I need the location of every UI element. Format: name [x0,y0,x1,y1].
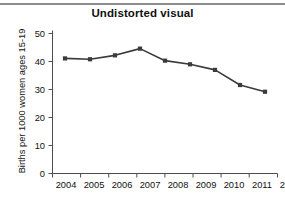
data-point-2011 [238,83,242,87]
y-tick-20: 20 [35,113,45,123]
y-tick-0: 0 [40,169,45,179]
data-point-2006 [113,53,117,57]
y-axis-tick-labels: 0 10 20 30 40 50 [35,29,45,179]
y-tick-10: 10 [35,141,45,151]
x-tick-2007: 2007 [140,180,161,190]
series-markers [63,47,267,94]
line-chart-plot: 0 10 20 30 40 50 2004 2005 2006 2007 200… [0,0,285,200]
x-tick-2005: 2005 [84,180,105,190]
chart-figure: Undistorted visual Births per 1000 women… [0,0,285,200]
x-axis-ticks [53,174,278,178]
data-point-2009 [188,62,192,66]
x-tick-2004: 2004 [56,180,77,190]
data-point-2005 [88,57,92,61]
x-tick-2009: 2009 [196,180,217,190]
x-axis-tick-labels: 2004 2005 2006 2007 2008 2009 2010 2011 … [56,180,285,190]
x-tick-2008: 2008 [168,180,189,190]
x-tick-2006: 2006 [112,180,133,190]
series-line-birth-rate [65,49,265,92]
data-point-2012 [263,90,267,94]
x-tick-2012: 2012 [280,180,285,190]
y-axis-ticks [49,34,53,174]
x-tick-2011: 2011 [252,180,272,190]
y-tick-40: 40 [35,57,45,67]
y-tick-30: 30 [35,85,45,95]
x-tick-2010: 2010 [224,180,245,190]
data-point-2008 [163,59,167,63]
axis-lines [53,31,278,174]
y-tick-50: 50 [35,29,45,39]
data-point-2007 [138,47,142,51]
data-point-2010 [213,68,217,72]
data-point-2004 [63,56,67,60]
